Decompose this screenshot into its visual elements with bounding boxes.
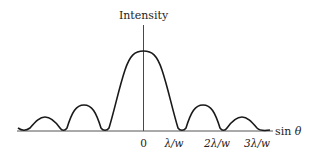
x-axis-label-func: sin bbox=[275, 125, 295, 138]
diffraction-diagram: Intensity sin θ 0 λ/w 2λ/w 3λ/w bbox=[0, 0, 309, 151]
tick-label-lambda-over-w: λ/w bbox=[163, 137, 183, 149]
y-axis-label: Intensity bbox=[119, 9, 169, 22]
tick-label-2lambda-over-w: 2λ/w bbox=[203, 137, 230, 149]
intensity-curve bbox=[18, 51, 270, 131]
x-axis-label: sin θ bbox=[275, 125, 302, 138]
tick-label-3lambda-over-w: 3λ/w bbox=[244, 137, 270, 149]
tick-label-0: 0 bbox=[140, 137, 147, 149]
x-axis-label-var: θ bbox=[295, 125, 302, 138]
